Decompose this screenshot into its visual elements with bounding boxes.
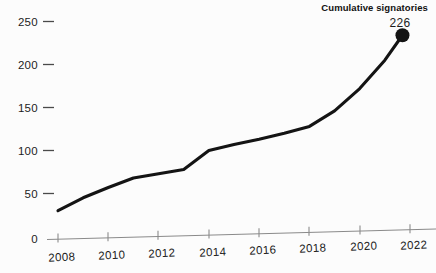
y-tick-label-50: 50 xyxy=(25,188,38,200)
y-axis-ticks xyxy=(43,22,54,194)
x-tick-label-2012: 2012 xyxy=(148,246,175,259)
y-tick-label-250: 250 xyxy=(18,16,38,28)
y-tick-label-0: 0 xyxy=(31,233,38,245)
x-tick-label-2010: 2010 xyxy=(98,248,125,261)
x-axis-line xyxy=(47,229,436,240)
y-tick-label-200: 200 xyxy=(18,59,38,71)
end-point-marker xyxy=(395,28,409,42)
x-tick-label-2014: 2014 xyxy=(199,245,227,258)
series-line-cumulative-signatories xyxy=(58,35,402,210)
x-tick-label-2008: 2008 xyxy=(48,250,75,263)
x-axis-labels: 2008 2010 2012 2014 2016 2018 2020 2022 xyxy=(48,238,427,263)
x-tick-label-2016: 2016 xyxy=(249,243,276,256)
chart-canvas: 250 200 150 100 50 0 2008 2010 2012 2014 xyxy=(0,0,436,273)
y-tick-label-100: 100 xyxy=(18,145,38,157)
x-tick-label-2018: 2018 xyxy=(299,241,326,254)
x-tick-label-2022: 2022 xyxy=(400,238,427,251)
y-tick-label-150: 150 xyxy=(18,102,38,114)
y-axis-labels: 250 200 150 100 50 0 xyxy=(18,16,38,245)
cumulative-signatories-chart: 250 200 150 100 50 0 2008 2010 2012 2014 xyxy=(0,0,436,273)
x-tick-label-2020: 2020 xyxy=(350,239,377,252)
series-annotation-label: Cumulative signatories xyxy=(321,2,428,13)
end-value-label: 226 xyxy=(390,16,411,30)
